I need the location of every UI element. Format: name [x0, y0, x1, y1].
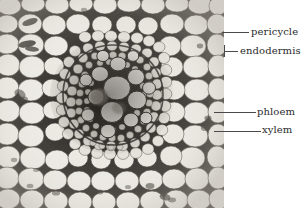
vignette [0, 0, 224, 208]
label-endodermis: endodermis [240, 46, 301, 56]
leader-line-phloem [214, 112, 256, 113]
leader-line-xylem [214, 131, 261, 132]
micrograph-canvas [0, 0, 224, 208]
label-pericycle: pericycle [251, 27, 298, 37]
label-xylem: xylem [262, 125, 292, 135]
root-cross-section-micrograph [0, 0, 224, 208]
labeled-micrograph-figure: pericycle endodermis phloem xylem [0, 0, 302, 212]
label-phloem: phloem [257, 107, 295, 117]
leader-line-endodermis [224, 51, 238, 52]
leader-line-pericycle [222, 32, 249, 33]
